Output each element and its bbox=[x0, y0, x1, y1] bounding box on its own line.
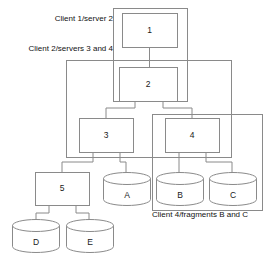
node-3-label: 3 bbox=[104, 130, 109, 140]
topology-diagram: 12345 ABCDE Client 1/server 2Client 2/se… bbox=[0, 0, 268, 253]
group-client1-label: Client 1/server 2 bbox=[55, 14, 114, 23]
node-5-label: 5 bbox=[60, 183, 65, 193]
link-3-a bbox=[120, 152, 126, 175]
diagram-canvas: 12345 ABCDE Client 1/server 2Client 2/se… bbox=[0, 0, 268, 253]
link-2-4 bbox=[163, 101, 192, 118]
cyl-e-top bbox=[67, 220, 114, 232]
cyl-d-top bbox=[13, 220, 60, 232]
node-2-label: 2 bbox=[146, 79, 151, 89]
cyl-a-top bbox=[104, 173, 151, 185]
cyl-c-label: C bbox=[230, 190, 236, 200]
group-client2-label: Client 2/servers 3 and 4 bbox=[29, 44, 114, 53]
cyl-d-label: D bbox=[33, 237, 39, 247]
link-4-c bbox=[206, 152, 232, 175]
cyl-b-top bbox=[157, 173, 204, 185]
cyl-e-label: E bbox=[87, 237, 93, 247]
cyl-b-label: B bbox=[177, 190, 183, 200]
cyl-a-label: A bbox=[124, 190, 130, 200]
cyl-c-top bbox=[210, 173, 257, 185]
node-4-label: 4 bbox=[190, 130, 195, 140]
node-1-label: 1 bbox=[147, 25, 152, 35]
link-2-3 bbox=[106, 101, 135, 118]
group-client4-label: Client 4/fragments B and C bbox=[152, 210, 248, 219]
